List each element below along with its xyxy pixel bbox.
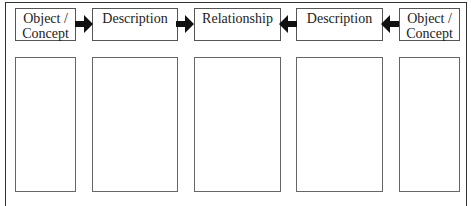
arrow-left-icon xyxy=(279,15,298,33)
arrow-right-icon xyxy=(176,15,195,33)
arrow-right-icon xyxy=(75,15,94,33)
content-box-relationship[interactable] xyxy=(194,57,281,192)
content-box-object-right[interactable] xyxy=(399,57,460,192)
header-description-left: Description xyxy=(92,8,178,41)
content-box-object-left[interactable] xyxy=(15,57,76,192)
arrow-left-icon xyxy=(381,15,400,33)
header-label: Description xyxy=(307,11,372,26)
header-label: Description xyxy=(102,11,167,26)
header-object-concept-left: Object / Concept xyxy=(15,8,76,41)
header-object-concept-right: Object / Concept xyxy=(399,8,460,41)
header-relationship: Relationship xyxy=(194,8,281,41)
header-label: Object / Concept xyxy=(406,11,453,41)
header-description-right: Description xyxy=(296,8,383,41)
header-label: Object / Concept xyxy=(22,11,69,41)
content-box-description-left[interactable] xyxy=(92,57,178,192)
content-box-description-right[interactable] xyxy=(296,57,383,192)
header-label: Relationship xyxy=(202,11,273,26)
